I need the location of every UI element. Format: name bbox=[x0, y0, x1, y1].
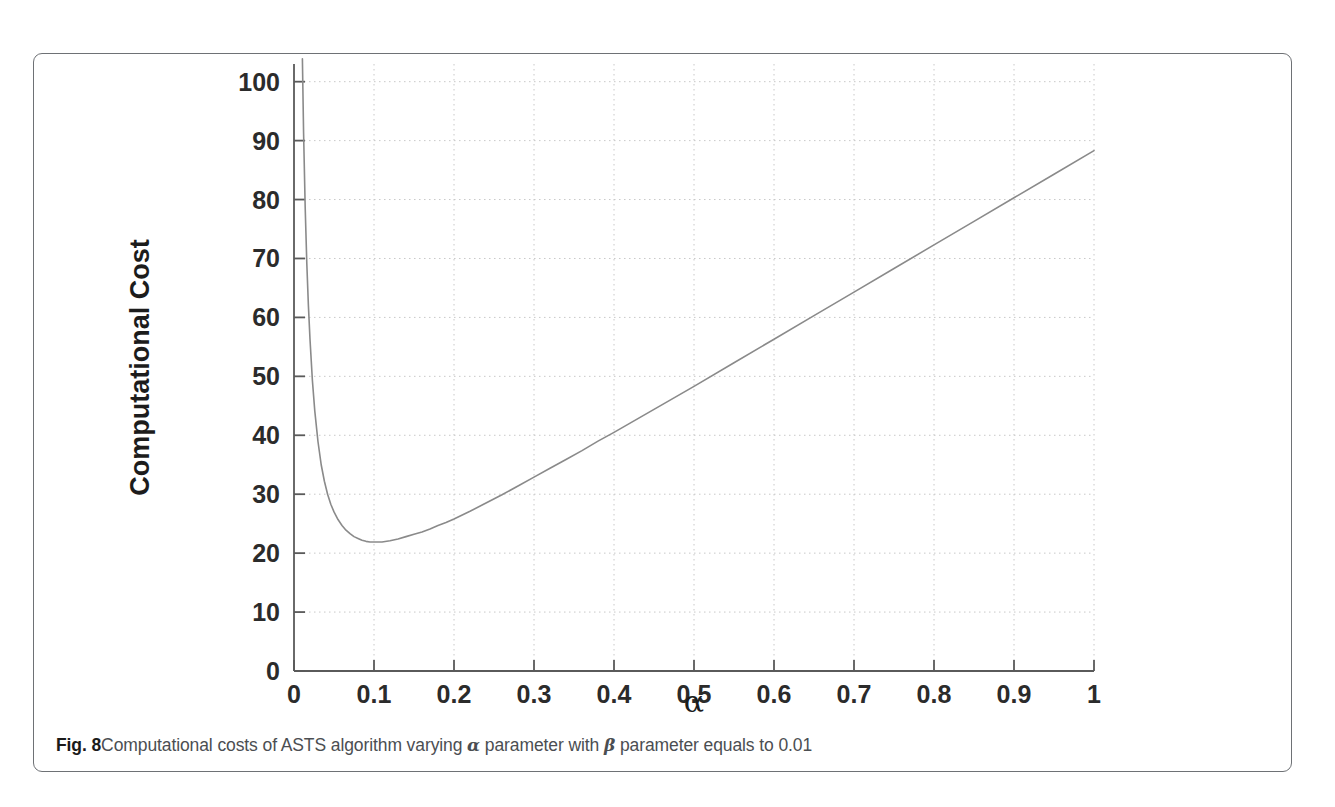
y-tick-label: 40 bbox=[252, 421, 280, 449]
y-tick-label: 10 bbox=[252, 598, 280, 626]
x-tick-label: 0.1 bbox=[357, 680, 392, 708]
data-series-line bbox=[302, 59, 1094, 542]
y-axis-label: Computational Cost bbox=[125, 239, 155, 496]
x-tick-label: 0.3 bbox=[517, 680, 552, 708]
x-tick-label: 1 bbox=[1087, 680, 1101, 708]
chart-svg: 0102030405060708090100 00.10.20.30.40.50… bbox=[34, 54, 1293, 714]
y-tick-label: 90 bbox=[252, 127, 280, 155]
x-tick-label: 0 bbox=[287, 680, 301, 708]
caption-text-part2: parameter with bbox=[480, 735, 604, 755]
y-tick-label: 70 bbox=[252, 244, 280, 272]
caption-text-part1: Computational costs of ASTS algorithm va… bbox=[101, 735, 467, 755]
x-axis-title: α bbox=[684, 684, 704, 714]
y-tick-label: 60 bbox=[252, 303, 280, 331]
y-axis-title: Computational Cost bbox=[125, 239, 155, 496]
x-axis-label: α bbox=[684, 684, 704, 714]
y-tick-label: 0 bbox=[266, 657, 280, 685]
caption-beta-symbol: β bbox=[604, 735, 615, 755]
caption-text-part3: parameter equals to 0.01 bbox=[615, 735, 812, 755]
grid-lines bbox=[294, 64, 1094, 671]
plot-area: 0102030405060708090100 00.10.20.30.40.50… bbox=[34, 54, 1293, 714]
y-tick-label: 100 bbox=[238, 68, 280, 96]
figure-caption: Fig. 8Computational costs of ASTS algori… bbox=[56, 734, 1271, 757]
y-tick-label: 50 bbox=[252, 362, 280, 390]
y-tick-label: 20 bbox=[252, 539, 280, 567]
caption-alpha-symbol: α bbox=[467, 735, 480, 755]
x-tick-label: 0.8 bbox=[917, 680, 952, 708]
x-tick-label: 0.7 bbox=[837, 680, 872, 708]
y-tick-label: 80 bbox=[252, 186, 280, 214]
x-tick-label: 0.6 bbox=[757, 680, 792, 708]
x-tick-label: 0.9 bbox=[997, 680, 1032, 708]
x-tick-label: 0.4 bbox=[597, 680, 632, 708]
y-tick-label: 30 bbox=[252, 480, 280, 508]
figure-card: 0102030405060708090100 00.10.20.30.40.50… bbox=[33, 53, 1292, 772]
figure-number: Fig. 8 bbox=[56, 735, 101, 755]
y-axis-ticks: 0102030405060708090100 bbox=[238, 68, 305, 685]
x-tick-label: 0.2 bbox=[437, 680, 472, 708]
